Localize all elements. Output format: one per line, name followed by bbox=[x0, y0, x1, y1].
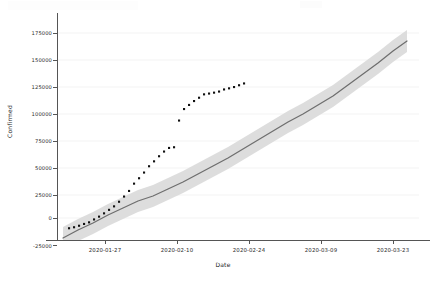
y-tick-label: 150000 bbox=[32, 57, 52, 63]
x-tick-label: 2020-03-09 bbox=[305, 247, 337, 253]
x-tick-label: 2020-01-27 bbox=[89, 247, 121, 253]
x-tick-mark bbox=[393, 240, 394, 244]
y-axis-title: Confirmed bbox=[6, 87, 13, 157]
plot-area bbox=[57, 13, 418, 240]
x-tick-mark bbox=[321, 240, 322, 244]
y-tick-label: 100000 bbox=[32, 111, 52, 117]
x-tick-label: 2020-03-23 bbox=[377, 247, 409, 253]
x-tick-mark bbox=[177, 240, 178, 244]
x-axis-title: Date bbox=[0, 261, 446, 268]
y-tick-label: 25000 bbox=[35, 192, 52, 198]
x-tick-label: 2020-02-10 bbox=[161, 247, 193, 253]
x-tick-mark bbox=[105, 240, 106, 244]
x-tick-label: 2020-02-24 bbox=[233, 247, 265, 253]
x-axis-spine bbox=[46, 240, 430, 241]
gridlines bbox=[58, 33, 419, 218]
y-tick-label: 175000 bbox=[32, 30, 52, 36]
y-tick-label: -25000 bbox=[33, 243, 52, 249]
y-tick-label: 0 bbox=[49, 215, 52, 221]
y-tick-label: 125000 bbox=[32, 84, 52, 90]
x-tick-mark bbox=[249, 240, 250, 244]
confidence-band bbox=[63, 30, 407, 240]
chart-figure: 175000 150000 125000 100000 75000 50000 … bbox=[0, 0, 446, 285]
plot-canvas bbox=[58, 13, 419, 240]
top-edge-artifact-secondary bbox=[300, 1, 322, 8]
y-tick-label: 50000 bbox=[35, 165, 52, 171]
y-tick-mark bbox=[53, 245, 57, 246]
y-tick-label: 75000 bbox=[35, 138, 52, 144]
